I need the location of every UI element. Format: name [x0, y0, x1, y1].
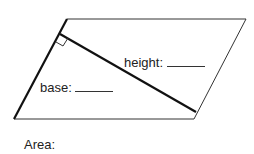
right-angle-marker	[56, 38, 68, 46]
area-label: Area:	[24, 137, 55, 152]
base-answer-blank[interactable]	[75, 91, 113, 92]
height-label: height:	[124, 55, 205, 70]
base-label: base:	[40, 80, 113, 95]
base-label-text: base:	[40, 80, 72, 95]
height-answer-blank[interactable]	[167, 66, 205, 67]
height-label-text: height:	[124, 55, 163, 70]
height-segment	[60, 34, 196, 112]
parallelogram-diagram	[0, 0, 254, 154]
base-side	[14, 19, 67, 119]
area-label-text: Area:	[24, 137, 55, 152]
